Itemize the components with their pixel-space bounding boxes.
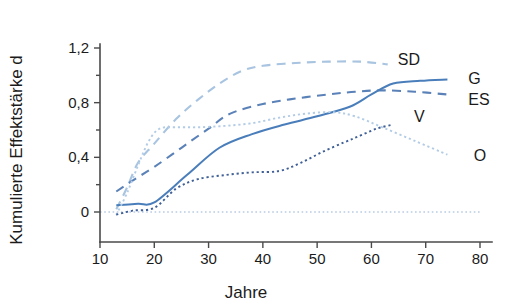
x-tick-label: 60 [363, 250, 380, 267]
x-tick-label: 20 [146, 250, 163, 267]
x-axis-title: Jahre [225, 283, 268, 302]
series-line-g [116, 79, 447, 205]
series-line-es [116, 90, 447, 191]
series-line-o [116, 112, 447, 215]
series-line-sd [116, 61, 387, 209]
line-chart-svg: 00,40,81,21020304050607080 SDESGOV Jahre… [0, 0, 506, 308]
y-tick-label: 1,2 [68, 39, 89, 56]
series-label-sd: SD [398, 51, 420, 68]
series-label-es: ES [468, 91, 489, 108]
series-label-g: G [468, 70, 480, 87]
y-tick-label: 0,8 [68, 94, 89, 111]
x-tick-label: 70 [417, 250, 434, 267]
series-labels-group: SDESGOV [398, 51, 490, 164]
y-tick-label: 0,4 [68, 148, 89, 165]
chart-figure: 00,40,81,21020304050607080 SDESGOV Jahre… [0, 0, 506, 308]
x-tick-label: 30 [200, 250, 217, 267]
y-axis-title: Kumulierte Effektstärke d [7, 55, 26, 245]
y-tick-label: 0 [81, 203, 89, 220]
series-label-o: O [474, 147, 486, 164]
series-label-v: V [414, 108, 425, 125]
series-paths-group [116, 61, 447, 214]
axes-group [94, 44, 492, 248]
x-tick-label: 10 [92, 250, 109, 267]
x-tick-label: 50 [309, 250, 326, 267]
x-tick-label: 80 [472, 250, 489, 267]
tick-labels-group: 00,40,81,21020304050607080 [68, 39, 488, 267]
x-tick-label: 40 [255, 250, 272, 267]
